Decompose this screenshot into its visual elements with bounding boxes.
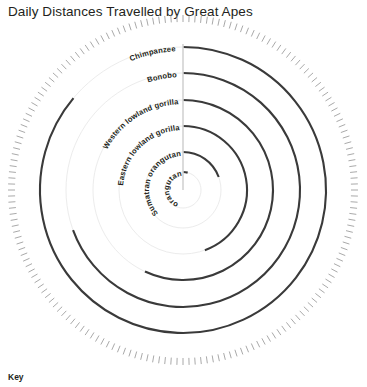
ring-tick	[262, 338, 265, 344]
ring-tick	[257, 33, 260, 39]
ring-tick	[206, 17, 207, 24]
species-arc-3	[145, 100, 273, 280]
ring-tick	[165, 357, 166, 364]
ring-tick	[41, 87, 47, 91]
ring-tick	[141, 353, 143, 360]
ring-tick	[28, 108, 34, 111]
ring-tick	[101, 35, 104, 41]
ring-tick	[23, 258, 29, 261]
ring-tick	[35, 279, 41, 283]
ring-tick	[123, 348, 125, 355]
ring-tick	[308, 73, 313, 78]
ring-tick	[147, 19, 148, 26]
ring-tick	[12, 225, 19, 226]
ring-tick	[90, 332, 94, 338]
ring-tick	[13, 148, 20, 150]
ring-tick	[322, 284, 328, 288]
ring-tick	[251, 30, 254, 36]
ring-tick	[41, 289, 47, 293]
ring-tick	[15, 236, 22, 238]
ring-tick	[19, 130, 26, 132]
ring-tick	[286, 322, 290, 328]
ring-tick	[282, 48, 286, 54]
ring-tick	[135, 351, 137, 358]
ring-tick	[66, 60, 71, 65]
ring-tick	[346, 231, 353, 233]
ring-tick	[112, 343, 115, 349]
ring-tick	[45, 293, 51, 297]
ring-tick	[153, 355, 154, 362]
ring-tick	[246, 346, 249, 352]
ring-tick	[349, 166, 356, 167]
ring-tick	[291, 319, 295, 324]
ring-tick	[49, 298, 54, 302]
ring-tick	[336, 258, 342, 261]
ring-tick	[123, 26, 125, 33]
ring-tick	[346, 148, 353, 150]
ring-tick	[334, 264, 340, 267]
ring-tick	[348, 160, 355, 161]
ring-tick	[343, 136, 350, 138]
ring-tick	[96, 335, 100, 341]
ring-tick	[282, 326, 286, 332]
ring-tick	[251, 343, 254, 349]
ring-tick	[38, 92, 44, 96]
ring-tick	[224, 20, 226, 27]
ring-tick	[212, 355, 213, 362]
ring-tick	[304, 307, 309, 312]
ring-tick	[322, 92, 328, 96]
ring-tick	[31, 274, 37, 278]
ring-tick	[10, 166, 17, 167]
ring-tick	[61, 311, 66, 316]
ring-tick	[347, 225, 354, 226]
ring-tick	[315, 82, 321, 86]
ring-tick	[61, 64, 66, 69]
ring-tick	[112, 30, 115, 36]
ring-tick	[295, 60, 300, 65]
ring-tick	[15, 142, 22, 144]
ring-tick	[312, 78, 317, 82]
ring-tick	[53, 302, 58, 307]
ring-tick	[218, 19, 219, 26]
ring-tick	[286, 52, 290, 58]
ring-tick	[28, 269, 34, 272]
ring-tick	[17, 242, 24, 244]
ring-tick	[71, 319, 75, 324]
ring-tick	[17, 136, 24, 138]
species-arc-2	[73, 73, 300, 307]
ring-tick	[159, 356, 160, 363]
ring-tick	[240, 348, 242, 355]
ring-tick	[331, 269, 337, 272]
ring-tick	[212, 18, 213, 25]
ring-tick	[147, 354, 148, 361]
ring-tick	[277, 45, 281, 51]
ring-tick	[325, 97, 331, 101]
ring-tick	[224, 353, 226, 360]
ring-tick	[106, 33, 109, 39]
ring-tick	[262, 35, 265, 41]
ring-tick	[129, 24, 131, 31]
ring-tick	[235, 350, 237, 357]
species-arc-4	[183, 126, 247, 250]
ring-tick	[235, 24, 237, 31]
species-arc-5	[183, 152, 219, 177]
ring-tick	[348, 219, 355, 220]
ring-tick	[85, 45, 89, 51]
ring-tick	[201, 357, 202, 364]
ring-tick	[339, 253, 345, 256]
ring-tick	[336, 119, 342, 122]
key-heading: Key	[8, 372, 24, 382]
ring-tick	[300, 311, 305, 316]
ring-tick	[57, 68, 62, 73]
ring-tick	[31, 103, 37, 107]
ring-tick	[350, 208, 357, 209]
ring-tick	[319, 289, 325, 293]
ring-tick	[201, 16, 202, 23]
ring-tick	[334, 113, 340, 116]
ring-tick	[165, 16, 166, 23]
ring-tick	[117, 28, 120, 34]
ring-tick	[135, 22, 137, 29]
ring-tick	[315, 293, 321, 297]
ring-tick	[35, 97, 41, 101]
ring-tick	[267, 38, 271, 44]
